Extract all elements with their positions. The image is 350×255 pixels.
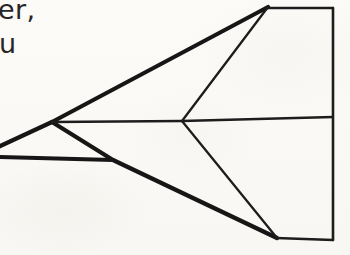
lower-left-horizontal-stroke bbox=[0, 157, 113, 160]
clipped-text-line-1: er, bbox=[0, 0, 60, 23]
bottom-trailing-horizontal-stroke bbox=[276, 238, 333, 240]
clipped-margin-text: er, u bbox=[0, 0, 60, 57]
lower-leading-edge-stroke bbox=[52, 122, 277, 238]
thin-strokes-group bbox=[52, 7, 333, 240]
upper-inner-rib-stroke bbox=[182, 7, 268, 121]
scanned-page: er, u bbox=[0, 0, 350, 255]
clipped-text-line-2: u bbox=[0, 30, 60, 57]
fuselage-centerline-stroke bbox=[52, 117, 333, 122]
lower-inner-rib-stroke bbox=[182, 121, 277, 238]
